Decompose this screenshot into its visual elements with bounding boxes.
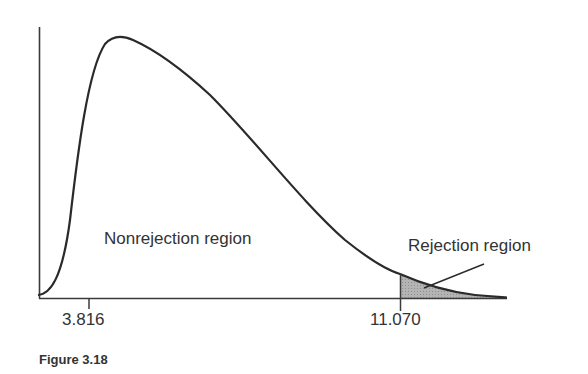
rejection-region-label: Rejection region [408,236,531,256]
x-tick-label-3816: 3.816 [62,310,105,330]
x-tick-label-11070: 11.070 [370,310,421,330]
rejection-region-shade [400,274,507,298]
density-curve [38,37,507,298]
rejection-pointer-line [424,264,484,288]
figure-caption: Figure 3.18 [39,352,108,367]
nonrejection-region-label: Nonrejection region [104,229,251,249]
